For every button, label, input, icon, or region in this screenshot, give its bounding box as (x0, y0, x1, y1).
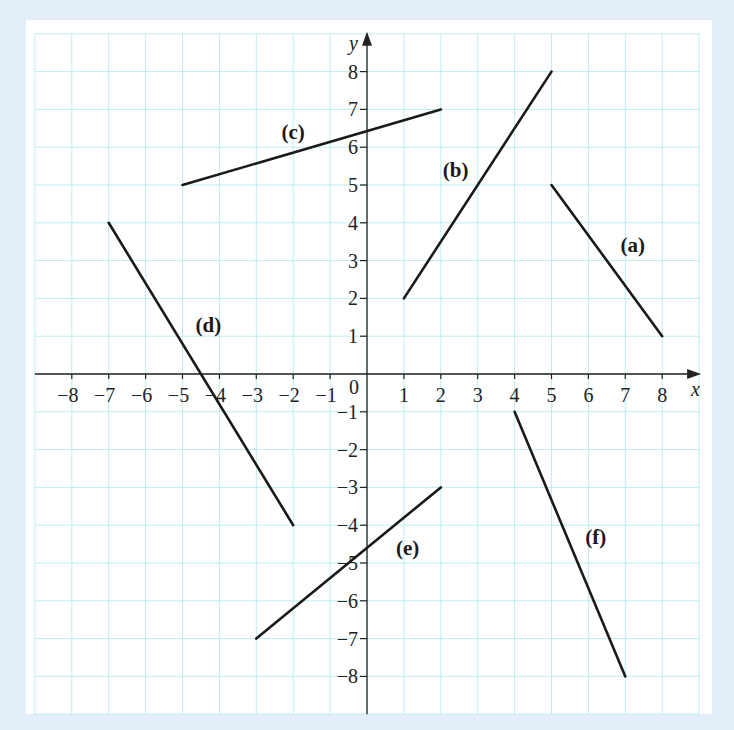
x-tick-label: 3 (473, 384, 483, 406)
segment-label-b: (b) (443, 158, 469, 182)
segment-f (515, 412, 626, 677)
y-tick-label: 1 (348, 325, 358, 347)
x-tick-label: 5 (547, 384, 557, 406)
y-tick-label: −8 (337, 665, 358, 687)
x-tick-label: 2 (436, 384, 446, 406)
x-tick-label: −5 (168, 384, 189, 406)
y-tick-label: 2 (348, 287, 358, 309)
x-axis-label: x (690, 378, 700, 400)
segment-label-e: (e) (396, 536, 419, 560)
y-tick-label: −3 (337, 476, 358, 498)
x-tick-label: 6 (583, 384, 593, 406)
y-tick-label: −4 (337, 514, 358, 536)
y-tick-label: −1 (337, 401, 358, 423)
y-tick-label: −2 (337, 439, 358, 461)
x-tick-label: −7 (94, 384, 115, 406)
y-tick-label: −7 (337, 628, 358, 650)
y-tick-label: 7 (348, 98, 358, 120)
x-tick-label: −1 (315, 384, 336, 406)
segment-label-d: (d) (195, 313, 221, 337)
x-tick-label: 8 (657, 384, 667, 406)
origin-label: 0 (349, 376, 359, 398)
x-axis-ticks: −8−7−6−5−4−3−2−112345678 (57, 374, 667, 406)
axes: xy0 (35, 32, 701, 714)
x-tick-label: 4 (510, 384, 520, 406)
y-tick-label: 6 (348, 136, 358, 158)
segment-label-f: (f) (585, 525, 606, 549)
y-tick-label: 8 (348, 61, 358, 83)
x-tick-label: 1 (399, 384, 409, 406)
y-tick-label: −6 (337, 590, 358, 612)
segment-label-a: (a) (620, 233, 645, 257)
y-tick-label: 3 (348, 250, 358, 272)
x-tick-label: −2 (279, 384, 300, 406)
segment-label-c: (c) (282, 120, 305, 144)
x-tick-label: 7 (620, 384, 630, 406)
y-axis-label: y (347, 32, 358, 55)
x-tick-label: −3 (242, 384, 263, 406)
segment-labels: (a)(b)(c)(d)(e)(f) (195, 120, 644, 560)
x-tick-label: −6 (131, 384, 152, 406)
y-tick-label: 4 (348, 212, 358, 234)
coordinate-plane: xy0 −8−7−6−5−4−3−2−112345678 87654321−1−… (0, 0, 734, 730)
y-tick-label: 5 (348, 174, 358, 196)
x-tick-label: −8 (57, 384, 78, 406)
